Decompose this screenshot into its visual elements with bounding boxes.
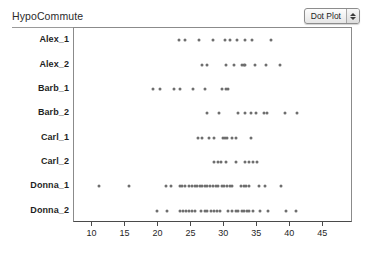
data-point[interactable] (252, 161, 255, 164)
data-point[interactable] (258, 185, 261, 188)
data-point[interactable] (236, 39, 239, 42)
data-point[interactable] (179, 87, 182, 90)
x-tick-label-30: 30 (218, 228, 228, 238)
data-point[interactable] (198, 39, 201, 42)
data-point[interactable] (219, 209, 222, 212)
plot-type-dropdown[interactable]: Dot Plot (304, 8, 360, 24)
plot-canvas[interactable] (74, 28, 351, 221)
data-point[interactable] (250, 112, 253, 115)
data-point[interactable] (221, 87, 224, 90)
data-point[interactable] (256, 161, 259, 164)
data-point[interactable] (152, 87, 155, 90)
data-point[interactable] (265, 63, 268, 66)
data-point[interactable] (178, 39, 181, 42)
triangle-down-icon[interactable] (350, 17, 356, 20)
data-point[interactable] (248, 161, 251, 164)
x-tick-label-35: 35 (251, 228, 261, 238)
data-point[interactable] (284, 112, 287, 115)
data-point[interactable] (128, 185, 131, 188)
data-point[interactable] (170, 185, 173, 188)
x-tick-mark-25 (190, 222, 191, 226)
x-tick-label-45: 45 (317, 228, 327, 238)
data-point[interactable] (159, 87, 162, 90)
page-title: HypoCommute (12, 10, 83, 22)
data-point[interactable] (201, 136, 204, 139)
triangle-up-icon[interactable] (350, 13, 356, 16)
data-point[interactable] (248, 209, 251, 212)
data-point[interactable] (250, 136, 253, 139)
data-point[interactable] (252, 209, 255, 212)
data-point[interactable] (248, 185, 251, 188)
data-point[interactable] (206, 209, 209, 212)
data-point[interactable] (266, 112, 269, 115)
data-point[interactable] (264, 185, 267, 188)
data-point[interactable] (194, 209, 197, 212)
data-point[interactable] (201, 63, 204, 66)
data-point[interactable] (212, 39, 215, 42)
data-point[interactable] (233, 63, 236, 66)
data-point[interactable] (206, 63, 209, 66)
data-point[interactable] (206, 112, 209, 115)
data-point[interactable] (192, 87, 195, 90)
x-tick-mark-45 (322, 222, 323, 226)
data-point[interactable] (244, 161, 247, 164)
data-point[interactable] (285, 209, 288, 212)
data-point[interactable] (225, 63, 228, 66)
data-point[interactable] (224, 39, 227, 42)
data-point[interactable] (259, 209, 262, 212)
data-point[interactable] (244, 112, 247, 115)
data-point[interactable] (165, 185, 168, 188)
data-point[interactable] (208, 136, 211, 139)
data-point[interactable] (173, 87, 176, 90)
data-point[interactable] (229, 39, 232, 42)
data-point[interactable] (235, 136, 238, 139)
data-point[interactable] (227, 209, 230, 212)
data-point[interactable] (231, 185, 234, 188)
data-point[interactable] (231, 209, 234, 212)
data-point[interactable] (235, 161, 238, 164)
data-point[interactable] (251, 39, 254, 42)
data-point[interactable] (296, 112, 299, 115)
data-point[interactable] (217, 185, 220, 188)
data-point[interactable] (156, 209, 159, 212)
y-axis-label-carl_2: Carl_2 (0, 156, 69, 166)
data-point[interactable] (227, 87, 230, 90)
plot-type-stepper[interactable] (346, 9, 359, 23)
data-point[interactable] (295, 209, 298, 212)
data-point[interactable] (244, 39, 247, 42)
data-point[interactable] (197, 136, 200, 139)
x-tick-label-40: 40 (284, 228, 294, 238)
data-point[interactable] (225, 161, 228, 164)
data-point[interactable] (267, 209, 270, 212)
data-point[interactable] (220, 161, 223, 164)
data-point[interactable] (270, 39, 273, 42)
data-point[interactable] (226, 136, 229, 139)
x-tick-mark-35 (256, 222, 257, 226)
data-point[interactable] (244, 63, 247, 66)
y-axis-label-barb_2: Barb_2 (0, 107, 69, 117)
x-tick-mark-10 (91, 222, 92, 226)
data-point[interactable] (200, 209, 203, 212)
data-point[interactable] (280, 185, 283, 188)
data-point[interactable] (279, 63, 282, 66)
x-tick-label-15: 15 (119, 228, 129, 238)
data-point[interactable] (98, 185, 101, 188)
data-point[interactable] (213, 136, 216, 139)
x-tick-label-20: 20 (152, 228, 162, 238)
data-point[interactable] (254, 63, 257, 66)
data-point[interactable] (218, 112, 221, 115)
data-point[interactable] (184, 185, 187, 188)
data-point[interactable] (231, 136, 234, 139)
header-band: HypoCommute Dot Plot (12, 9, 360, 28)
data-point[interactable] (184, 39, 187, 42)
data-point[interactable] (213, 161, 216, 164)
data-point[interactable] (166, 209, 169, 212)
data-point[interactable] (237, 209, 240, 212)
x-tick-label-25: 25 (185, 228, 195, 238)
data-point[interactable] (204, 87, 207, 90)
x-tick-label-10: 10 (86, 228, 96, 238)
data-point[interactable] (237, 112, 240, 115)
y-axis-label-donna_1: Donna_1 (0, 180, 69, 190)
plot-frame[interactable] (73, 27, 352, 222)
data-point[interactable] (255, 112, 258, 115)
